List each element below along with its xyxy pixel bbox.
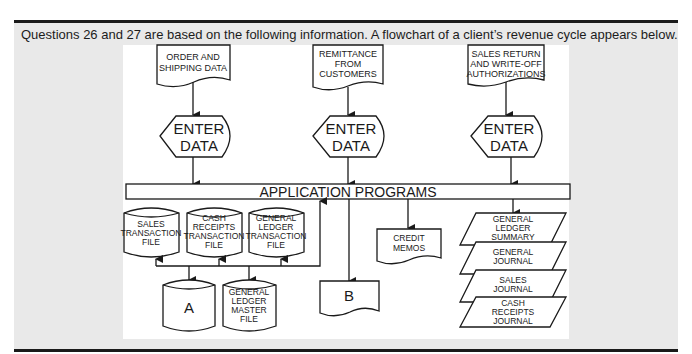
- svg-text:B: B: [344, 287, 354, 304]
- svg-text:CUSTOMERS: CUSTOMERS: [319, 69, 376, 79]
- general-ledger-master-file: GENERAL LEDGER MASTER FILE: [223, 280, 276, 331]
- svg-text:FILE: FILE: [142, 237, 160, 247]
- sales-transaction-file: SALES TRANSACTION FILE: [121, 208, 182, 257]
- cash-receipts-transaction-file: CASH RECEIPTS TRANSACTION FILE: [184, 208, 245, 257]
- svg-text:ENTER: ENTER: [484, 120, 535, 137]
- svg-text:AUTHORIZATIONS: AUTHORIZATIONS: [467, 69, 546, 79]
- svg-text:REMITTANCE: REMITTANCE: [319, 49, 377, 59]
- svg-text:A: A: [184, 299, 194, 316]
- general-ledger-transaction-file: GENERAL LEDGER TRANSACTION FILE: [246, 208, 307, 257]
- journal-general: GENERAL JOURNAL: [460, 242, 566, 274]
- svg-text:ENTER: ENTER: [326, 120, 377, 137]
- master-file-a: A: [163, 280, 215, 331]
- svg-text:SUMMARY: SUMMARY: [491, 232, 535, 242]
- application-programs-bar: APPLICATION PROGRAMS: [126, 184, 570, 200]
- input-order-line1: ORDER AND: [166, 52, 220, 62]
- input-document-remittance: REMITTANCE FROM CUSTOMERS: [313, 45, 383, 90]
- svg-text:ENTER: ENTER: [174, 120, 225, 137]
- svg-text:DATA: DATA: [332, 137, 370, 154]
- svg-text:APPLICATION PROGRAMS: APPLICATION PROGRAMS: [259, 184, 436, 200]
- svg-text:AND WRITE-OFF: AND WRITE-OFF: [470, 59, 542, 69]
- credit-memos-document: CREDIT MEMOS: [377, 229, 441, 264]
- svg-text:FROM: FROM: [335, 59, 362, 69]
- input-document-sales-return: SALES RETURN AND WRITE-OFF AUTHORIZATION…: [467, 45, 546, 86]
- svg-text:CREDIT: CREDIT: [393, 233, 425, 243]
- svg-text:SALES RETURN: SALES RETURN: [471, 49, 540, 59]
- svg-text:JOURNAL: JOURNAL: [493, 284, 533, 294]
- enter-data-2: ENTER DATA: [313, 116, 384, 157]
- input-order-line2: SHIPPING DATA: [159, 63, 227, 73]
- svg-text:FILE: FILE: [267, 240, 285, 250]
- journal-general-ledger-summary: GENERAL LEDGER SUMMARY: [460, 213, 566, 245]
- svg-text:DATA: DATA: [180, 137, 218, 154]
- enter-data-1: ENTER DATA: [160, 116, 230, 157]
- svg-text:MEMOS: MEMOS: [393, 243, 425, 253]
- svg-text:JOURNAL: JOURNAL: [493, 256, 533, 266]
- svg-text:FILE: FILE: [240, 314, 258, 324]
- input-document-order-shipping: ORDER AND SHIPPING DATA: [157, 45, 230, 87]
- document-b: B: [320, 281, 379, 316]
- svg-text:DATA: DATA: [490, 137, 528, 154]
- revenue-cycle-flowchart: ORDER AND SHIPPING DATA REMITTANCE FROM …: [0, 0, 692, 354]
- svg-text:FILE: FILE: [205, 240, 223, 250]
- svg-text:JOURNAL: JOURNAL: [493, 316, 533, 326]
- journal-cash-receipts: CASH RECEIPTS JOURNAL: [460, 297, 566, 327]
- enter-data-3: ENTER DATA: [471, 116, 542, 157]
